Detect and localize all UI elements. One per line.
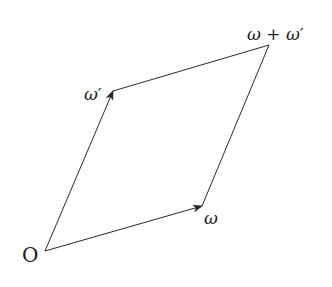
- label-omega: ω: [204, 208, 218, 228]
- label-omega-prime: ω′: [84, 84, 102, 104]
- label-origin: O: [22, 243, 38, 267]
- edge-omega-to-sum: [202, 45, 269, 206]
- vector-omega: [45, 206, 202, 251]
- vector-omega-prime: [45, 91, 113, 251]
- edge-omega-prime-to-sum: [113, 45, 269, 91]
- parallelogram-diagram: O ω ω′ ω + ω′: [0, 0, 332, 287]
- label-sum: ω + ω′: [247, 24, 304, 44]
